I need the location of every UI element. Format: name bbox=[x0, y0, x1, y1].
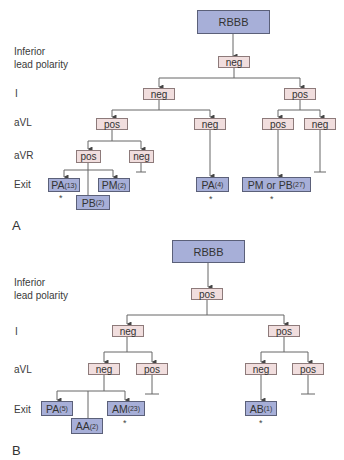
row-label-lead-polarity: lead polarity bbox=[14, 290, 68, 302]
avl-box-1: neg bbox=[88, 363, 120, 375]
row-label-lead-i: I bbox=[15, 326, 18, 338]
exit-box-pa-13: PA(13) bbox=[48, 178, 80, 192]
lead-i-right-box: pos bbox=[268, 325, 300, 337]
exit-box-ab-1: AB(1) bbox=[245, 401, 277, 416]
row-label-inferior: Inferior bbox=[14, 46, 45, 58]
avl-box-4: neg bbox=[304, 118, 336, 130]
row-label-avl: aVL bbox=[14, 117, 32, 129]
panel-label-b: B bbox=[12, 443, 21, 458]
row-label-inferior: Inferior bbox=[14, 277, 45, 289]
avl-box-1: pos bbox=[96, 118, 128, 130]
exit-box-pb-2: PB(2) bbox=[76, 195, 110, 210]
inferior-polarity-box: pos bbox=[191, 288, 223, 300]
significance-star: * bbox=[59, 193, 63, 203]
avl-box-3: neg bbox=[245, 363, 277, 375]
row-label-lead-i: I bbox=[15, 88, 18, 100]
significance-star: * bbox=[209, 194, 213, 204]
exit-box-am-23: AM(23) bbox=[107, 401, 145, 416]
significance-star: * bbox=[270, 194, 274, 204]
significance-star: * bbox=[123, 418, 127, 428]
root-rbbb-box: RBBB bbox=[197, 10, 270, 34]
row-label-avl: aVL bbox=[14, 364, 32, 376]
lead-i-right-box: pos bbox=[284, 88, 316, 100]
avl-box-3: pos bbox=[262, 118, 294, 130]
row-label-exit: Exit bbox=[14, 179, 31, 191]
significance-star: * bbox=[259, 418, 263, 428]
lead-i-left-box: neg bbox=[143, 88, 175, 100]
avl-box-2: pos bbox=[136, 363, 168, 375]
exit-box-pa-5: PA(5) bbox=[41, 401, 73, 416]
avr-box-2: neg bbox=[129, 150, 154, 163]
avl-box-2: neg bbox=[194, 118, 226, 130]
avr-box-1: pos bbox=[76, 150, 101, 163]
exit-box-pm-2: PM(2) bbox=[98, 178, 130, 192]
row-label-lead-polarity: lead polarity bbox=[14, 59, 68, 71]
root-rbbb-box: RBBB bbox=[172, 240, 245, 263]
inferior-polarity-box: neg bbox=[218, 56, 250, 68]
exit-box-pa-4: PA(4) bbox=[196, 177, 229, 192]
panel-label-a: A bbox=[12, 218, 21, 233]
lead-i-left-box: neg bbox=[112, 325, 144, 337]
row-label-exit: Exit bbox=[14, 404, 31, 416]
exit-box-aa-2: AA(2) bbox=[71, 418, 103, 434]
row-label-avr: aVR bbox=[14, 150, 33, 162]
exit-box-pm-or-pb-27: PM or PB(27) bbox=[242, 177, 311, 192]
avl-box-4: pos bbox=[292, 363, 324, 375]
